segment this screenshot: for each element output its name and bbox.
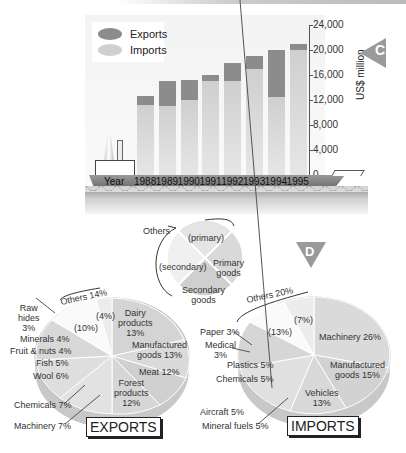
text: Primary: [213, 258, 244, 268]
imports-others-secondary: (13%): [268, 327, 292, 337]
exports-dairy-label: Dairy products 13%: [118, 308, 153, 338]
text: Forest: [114, 378, 149, 388]
imports-medical-label: Medical 3%: [205, 340, 236, 360]
badge-d-label: D: [305, 244, 314, 259]
text: goods 15%: [330, 370, 385, 380]
exports-fish-label: Fish 5%: [36, 358, 69, 368]
text: goods: [213, 268, 244, 278]
exports-others-secondary: (10%): [74, 323, 98, 333]
key-primary-paren: (primary): [188, 233, 224, 243]
text: Vehicles: [305, 388, 339, 398]
imports-vehicles-label: Vehicles 13%: [305, 388, 339, 408]
text: Raw: [18, 303, 40, 313]
imports-machinery-label: Machinery 26%: [319, 332, 381, 342]
exports-forest-label: Forest products 12%: [114, 378, 149, 408]
imports-fuels-label: Mineral fuels 5%: [202, 421, 269, 431]
text: hides: [18, 313, 40, 323]
exports-wool-label: Wool 6%: [33, 371, 69, 381]
text: products: [118, 318, 153, 328]
imports-plastics-label: Plastics 5%: [227, 360, 274, 370]
pie-graphics: [0, 0, 406, 453]
imports-others-primary: (7%): [294, 315, 313, 325]
exports-chemicals-label: Chemicals 7%: [14, 400, 72, 410]
text: Secondary: [182, 285, 225, 295]
key-secondary-goods: Secondary goods: [182, 285, 225, 305]
text: 3%: [18, 323, 40, 333]
imports-aircraft-label: Aircraft 5%: [200, 407, 244, 417]
text: products: [114, 388, 149, 398]
key-secondary-paren: (secondary): [159, 262, 207, 272]
text: Medical: [205, 340, 236, 350]
text: 3%: [205, 350, 236, 360]
text: 12%: [114, 398, 149, 408]
exports-manufactured-label: Manufactured goods 13%: [132, 340, 187, 360]
text: 13%: [118, 328, 153, 338]
text: Manufactured: [132, 340, 187, 350]
exports-raw-hides-label: Raw hides 3%: [18, 303, 40, 333]
exports-fruit-label: Fruit & nuts 4%: [10, 346, 72, 356]
text: Dairy: [118, 308, 153, 318]
imports-title: IMPORTS: [287, 416, 359, 436]
text: goods: [182, 295, 225, 305]
imports-manufactured-label: Manufactured goods 15%: [330, 360, 385, 380]
text: Manufactured: [330, 360, 385, 370]
text: 13%: [305, 398, 339, 408]
exports-title: EXPORTS: [86, 417, 161, 437]
exports-machinery-label: Machinery 7%: [14, 421, 71, 431]
key-others-label: Others: [143, 226, 170, 236]
imports-chemicals-label: Chemicals 5%: [216, 374, 274, 384]
text: goods 13%: [132, 350, 187, 360]
imports-paper-label: Paper 3%: [200, 327, 240, 337]
exports-meat-label: Meat 12%: [139, 367, 180, 377]
key-primary-goods: Primary goods: [213, 258, 244, 278]
exports-others-primary: (4%): [96, 311, 115, 321]
exports-minerals-label: Minerals 4%: [20, 334, 70, 344]
